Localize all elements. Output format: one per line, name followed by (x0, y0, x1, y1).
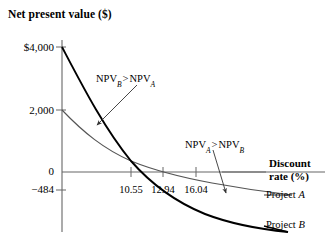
y-tick-label-4000: $4,000 (0, 41, 54, 53)
series-label-project-b-text: Project B (266, 219, 305, 230)
x-tick-label-1604: 16.04 (172, 184, 220, 195)
npv-profile-chart: Net present value ($) (0, 0, 329, 239)
annotation-npv-b-gt-a-lead: NPV (96, 73, 117, 84)
annotation-npv-b-gt-a: NPVB>NPVA (96, 73, 155, 87)
series-label-project-b: Project B (266, 219, 305, 230)
annotation-npv-a-gt-b-sub2: B (240, 146, 245, 155)
annotation-npv-b-gt-a-op: > (122, 73, 130, 84)
y-tick-label-0: 0 (0, 165, 54, 177)
annotation-npv-b-gt-a-sub1: B (117, 80, 122, 89)
y-tick-label-2000: 2,000 (0, 104, 54, 116)
x-axis-label: Discount rate (%) (269, 157, 311, 182)
annotation-npv-a-gt-b-op: > (211, 139, 219, 150)
annotation-arrow-npv-b-gt-a (97, 85, 137, 125)
annotation-npv-a-gt-b-trail: NPV (219, 139, 240, 150)
series-label-project-a-text: Project A (266, 189, 305, 200)
annotation-npv-b-gt-a-trail: NPV (130, 73, 151, 84)
annotation-npv-b-gt-a-sub2: A (151, 80, 156, 89)
annotation-npv-a-gt-b: NPVA>NPVB (185, 139, 244, 153)
series-line-project-a (62, 110, 292, 195)
annotation-npv-a-gt-b-sub1: A (206, 146, 211, 155)
series-label-project-a: Project A (266, 189, 305, 200)
x-axis-label-line1: Discount (269, 157, 311, 170)
y-tick-label-minus484: −484 (0, 183, 54, 195)
annotation-npv-a-gt-b-lead: NPV (185, 139, 206, 150)
x-axis-label-line2: rate (%) (269, 170, 311, 183)
plot-area (0, 0, 329, 239)
